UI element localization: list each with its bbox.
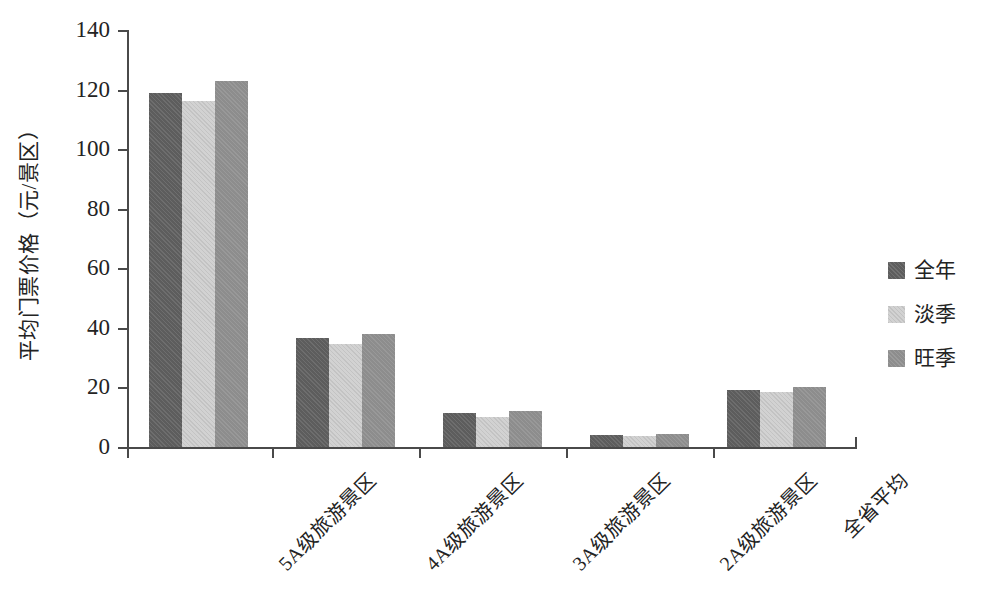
bar: [793, 387, 826, 447]
x-axis-category-label: 2A级旅游景区: [711, 465, 822, 576]
bar: [656, 434, 689, 447]
bar: [476, 417, 509, 447]
bar: [509, 411, 542, 447]
legend-item: 淡季: [888, 292, 984, 336]
x-axis-tick: [566, 447, 568, 458]
x-axis-category-label: 3A级旅游景区: [564, 465, 675, 576]
legend-label: 旺季: [914, 348, 956, 369]
legend: 全年淡季旺季: [888, 248, 984, 380]
legend-swatch-icon: [888, 262, 905, 279]
x-axis-tick: [272, 447, 274, 458]
bar: [149, 93, 182, 447]
legend-item: 全年: [888, 248, 984, 292]
bar: [182, 101, 215, 447]
bar: [362, 334, 395, 447]
y-axis-tick: [118, 328, 129, 330]
legend-swatch-icon: [888, 306, 905, 323]
x-axis-tick: [419, 447, 421, 458]
x-axis-end-cap: [855, 437, 857, 449]
y-axis-tick: [118, 30, 129, 32]
bar: [760, 392, 793, 447]
y-axis-tick: [118, 90, 129, 92]
x-axis-category-label: 全省平均: [835, 465, 913, 543]
bar: [215, 81, 248, 447]
legend-swatch-icon: [888, 350, 905, 367]
bar: [443, 413, 476, 447]
x-axis-tick: [713, 447, 715, 458]
bar: [623, 436, 656, 447]
x-axis-category-label: 4A级旅游景区: [417, 465, 528, 576]
legend-label: 淡季: [914, 304, 956, 325]
legend-item: 旺季: [888, 336, 984, 380]
bar: [590, 435, 623, 447]
y-axis-tick: [118, 149, 129, 151]
y-axis-tick: [118, 209, 129, 211]
bar: [329, 344, 362, 447]
y-axis-tick: [118, 387, 129, 389]
x-axis-line: [127, 447, 855, 449]
plot-area: 5A级旅游景区4A级旅游景区3A级旅游景区2A级旅游景区全省平均: [0, 0, 986, 604]
legend-label: 全年: [914, 260, 956, 281]
bar: [727, 390, 760, 447]
bar: [296, 338, 329, 447]
y-axis-tick: [118, 268, 129, 270]
bar-chart: 平均门票价格（元/景区） 020406080100120140 5A级旅游景区4…: [0, 0, 986, 604]
x-axis-tick: [127, 447, 129, 458]
x-axis-category-label: 5A级旅游景区: [270, 465, 381, 576]
